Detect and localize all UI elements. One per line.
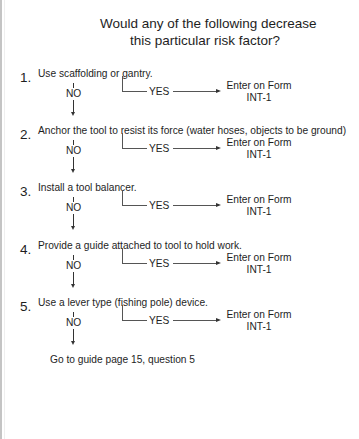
- step-number: 4.: [20, 243, 31, 257]
- step-question: Use scaffolding or gantry.: [38, 68, 153, 80]
- no-label: NO: [66, 88, 81, 100]
- right-arrow-icon: [216, 203, 221, 207]
- right-arrow-icon: [216, 261, 221, 265]
- title-line-1: Would any of the following decrease: [100, 15, 310, 32]
- outcome-line-1: Enter on Form: [226, 194, 292, 206]
- yes-branch-connector: [122, 133, 123, 148]
- flow-step-1: 1. Use scaffolding or gantry. NO YES Ent…: [0, 68, 359, 124]
- yes-branch-connector: [122, 190, 123, 205]
- no-label: NO: [66, 145, 81, 157]
- final-instruction: Go to guide page 15, question 5: [50, 354, 195, 366]
- yes-label: YES: [149, 86, 169, 98]
- yes-branch-line: [173, 91, 217, 92]
- yes-branch-line: [173, 148, 217, 149]
- outcome-line-1: Enter on Form: [226, 309, 292, 321]
- title-line-2: this particular risk factor?: [100, 32, 310, 49]
- flow-step-3: 3. Install a tool balancer. NO YES Enter…: [0, 182, 359, 238]
- yes-branch-line: [122, 91, 147, 92]
- outcome-line-2: INT-1: [226, 149, 292, 161]
- down-arrow-icon: [71, 341, 75, 345]
- yes-branch-connector: [122, 248, 123, 263]
- yes-branch-line: [122, 205, 147, 206]
- step-number: 5.: [20, 300, 31, 314]
- outcome-line-1: Enter on Form: [226, 80, 292, 92]
- outcome-box: Enter on Form INT-1: [226, 137, 292, 161]
- right-arrow-icon: [216, 146, 221, 150]
- outcome-line-2: INT-1: [226, 206, 292, 218]
- yes-label: YES: [149, 143, 169, 155]
- outcome-box: Enter on Form INT-1: [226, 252, 292, 276]
- yes-branch-line: [173, 263, 217, 264]
- down-arrow-icon: [71, 284, 75, 288]
- step-question: Anchor the tool to resist its force (wat…: [38, 125, 346, 137]
- outcome-line-1: Enter on Form: [226, 137, 292, 149]
- yes-branch-connector: [122, 305, 123, 320]
- down-arrow-icon: [71, 112, 75, 116]
- step-question: Provide a guide attached to tool to hold…: [38, 240, 242, 252]
- flow-step-2: 2. Anchor the tool to resist its force (…: [0, 125, 359, 181]
- outcome-box: Enter on Form INT-1: [226, 309, 292, 333]
- step-number: 2.: [20, 128, 31, 142]
- down-arrow-icon: [71, 169, 75, 173]
- outcome-line-2: INT-1: [226, 264, 292, 276]
- yes-branch-connector: [122, 76, 123, 91]
- right-arrow-icon: [216, 318, 221, 322]
- yes-label: YES: [149, 200, 169, 212]
- yes-branch-line: [122, 148, 147, 149]
- outcome-box: Enter on Form INT-1: [226, 80, 292, 104]
- no-label: NO: [66, 202, 81, 214]
- flow-step-5: 5. Use a lever type (fishing pole) devic…: [0, 297, 359, 353]
- yes-label: YES: [149, 258, 169, 270]
- yes-branch-line: [173, 320, 217, 321]
- page-title: Would any of the following decrease this…: [100, 15, 310, 49]
- outcome-line-2: INT-1: [226, 92, 292, 104]
- no-label: NO: [66, 260, 81, 272]
- outcome-box: Enter on Form INT-1: [226, 194, 292, 218]
- yes-branch-line: [122, 263, 147, 264]
- step-number: 3.: [20, 185, 31, 199]
- no-label: NO: [66, 317, 81, 329]
- flow-step-4: 4. Provide a guide attached to tool to h…: [0, 240, 359, 296]
- down-arrow-icon: [71, 226, 75, 230]
- yes-label: YES: [149, 315, 169, 327]
- step-number: 1.: [20, 71, 31, 85]
- right-arrow-icon: [216, 89, 221, 93]
- yes-branch-line: [173, 205, 217, 206]
- outcome-line-1: Enter on Form: [226, 252, 292, 264]
- outcome-line-2: INT-1: [226, 321, 292, 333]
- yes-branch-line: [122, 320, 147, 321]
